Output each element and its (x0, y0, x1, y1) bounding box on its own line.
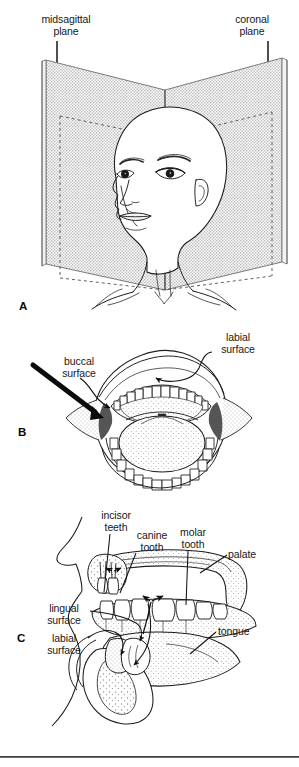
label-midsagittal-plane: midsagittal plane (18, 14, 114, 37)
label-canine-tooth: canine tooth (131, 530, 173, 553)
bottom-divider-rule (0, 756, 299, 758)
figure-root: midsagittal plane coronal plane A buccal… (0, 0, 299, 767)
lower-teeth-c (100, 599, 227, 621)
label-labial-surface-c: labial surface (40, 633, 88, 656)
nose-profile (57, 517, 82, 591)
label-labial-surface-b: labial surface (208, 332, 268, 355)
label-buccal-surface: buccal surface (50, 356, 108, 379)
label-palate: palate (228, 549, 278, 561)
panel-letter-a: A (19, 300, 28, 312)
anterior-lower-tooth-detail (105, 638, 150, 674)
left-cheek-retraction (66, 400, 99, 440)
tongue-b (119, 416, 205, 472)
label-molar-tooth: molar tooth (172, 527, 214, 550)
bottom-caption-partial (10, 762, 289, 767)
right-cheek-retraction (221, 398, 252, 440)
panel-letter-b: B (18, 426, 27, 438)
label-coronal-plane: coronal plane (214, 14, 290, 37)
label-lingual-surface: lingual surface (40, 603, 88, 626)
label-tongue: tongue (218, 626, 268, 638)
panel-a-illustration (42, 41, 287, 310)
panel-letter-c: C (17, 632, 26, 644)
